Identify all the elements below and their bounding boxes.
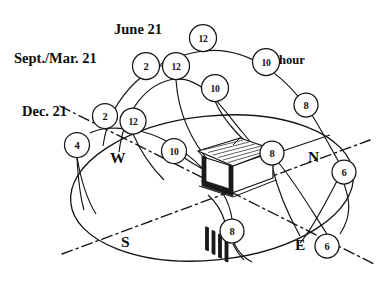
cardinal-label-west: W — [110, 149, 126, 167]
hour-marker-dec-8[interactable]: 8 — [220, 219, 244, 243]
hour-marker-label: 12 — [129, 116, 138, 127]
hour-marker-eq-6[interactable]: 6 — [315, 234, 339, 258]
cardinal-label-east: E — [295, 236, 305, 254]
hour-marker-label: 8 — [303, 100, 308, 111]
hour-marker-dec-4[interactable]: 4 — [65, 133, 90, 158]
sun-path-diagram: 12108621210862121084 June 21 Sept./Mar. … — [0, 0, 384, 290]
ray-jun6-to-horizon — [300, 181, 337, 243]
hour-marker-label: 2 — [143, 61, 148, 72]
sun-path-canvas: 12108621210862121084 — [0, 0, 384, 290]
hour-marker-label: 10 — [211, 83, 220, 94]
hour-marker-label: 6 — [324, 241, 329, 252]
hour-marker-eq-12[interactable]: 12 — [163, 53, 190, 80]
cardinal-label-north: N — [308, 148, 319, 166]
cardinal-label-south: S — [121, 233, 130, 251]
hour-marker-label: 12 — [172, 61, 181, 72]
hour-marker-label: 4 — [74, 140, 80, 151]
ray-eq8-to-horizon — [272, 166, 300, 236]
sunpath-equinox-arc-tail — [278, 162, 327, 234]
hour-marker-jun-12[interactable]: 12 — [190, 25, 217, 52]
hour-marker-jun-2[interactable]: 2 — [133, 53, 160, 80]
hour-marker-label: 10 — [170, 146, 179, 157]
hour-marker-label: 2 — [102, 111, 107, 122]
hour-marker-jun-10[interactable]: 10 — [253, 49, 280, 76]
ray-dec12-to-horizon — [133, 134, 164, 180]
label-equinox-21: Sept./Mar. 21 — [14, 50, 97, 67]
hour-marker-dec-2[interactable]: 2 — [93, 104, 118, 129]
hour-marker-label: 8 — [229, 226, 234, 237]
label-hour-unit: hour — [279, 53, 305, 68]
hour-marker-label: 8 — [269, 148, 274, 159]
hour-marker-dec-12[interactable]: 12 — [120, 108, 146, 134]
hour-marker-dec-10[interactable]: 10 — [162, 139, 187, 164]
hour-marker-jun-6[interactable]: 6 — [332, 160, 356, 184]
hour-marker-label: 6 — [341, 167, 346, 178]
sunpath-june-arc-tail — [340, 184, 349, 234]
hour-marker-eq-8[interactable]: 8 — [260, 141, 284, 165]
hour-marker-eq-10[interactable]: 10 — [202, 75, 229, 102]
hour-marker-jun-8[interactable]: 8 — [294, 93, 318, 117]
label-june-21: June 21 — [114, 21, 162, 38]
house-corner-post-left — [202, 156, 206, 184]
house-corner-post-right — [229, 165, 233, 193]
label-dec-21: Dec. 21 — [22, 103, 67, 120]
hour-marker-label: 12 — [199, 33, 208, 44]
hour-marker-label: 10 — [262, 57, 271, 68]
